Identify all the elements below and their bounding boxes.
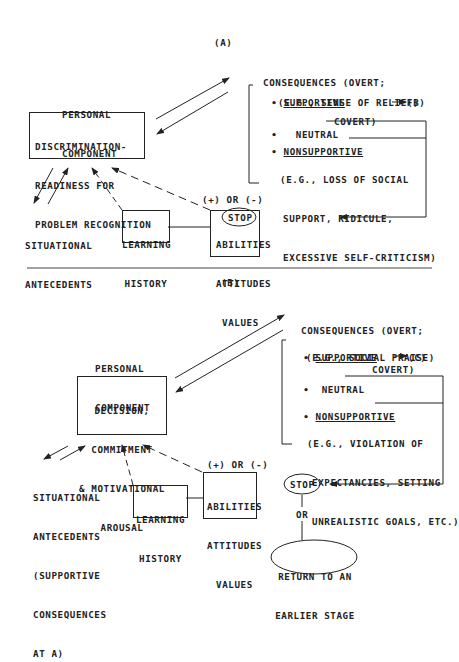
situational-line: SITUATIONAL: [25, 239, 92, 252]
supportive-line: (SUPPORTIVE: [33, 569, 107, 582]
abilities-line: ABILITIES: [216, 238, 271, 251]
history-line: HISTORY: [133, 552, 188, 565]
panel-a-label: (A): [214, 36, 232, 49]
example-line: EXCESSIVE SELF-CRITICISM): [280, 251, 436, 264]
consequences-line: CONSEQUENCES: [33, 608, 107, 621]
consequences-line: CONSEQUENCES (OVERT;: [301, 324, 424, 337]
target-b-label: (B): [407, 96, 425, 109]
example-line: EXPECTANCIES, SETTING: [307, 476, 459, 489]
learning-line: LEARNING: [122, 238, 170, 251]
learning-history-text-b: LEARNING HISTORY: [133, 487, 188, 578]
values-line: VALUES: [207, 578, 262, 591]
target-c-label: (C): [408, 351, 426, 364]
neutral-item-b: • NEUTRAL: [291, 370, 365, 396]
main-box-line: DECISION,: [77, 404, 167, 417]
situational-antecedents-a: SITUATIONAL ANTECEDENTS: [25, 213, 92, 304]
situational-line: SITUATIONAL: [33, 491, 107, 504]
personal-line: PERSONAL: [95, 362, 150, 375]
situational-antecedents-b: SITUATIONAL ANTECEDENTS (SUPPORTIVE CONS…: [33, 465, 107, 662]
neutral-label: NEUTRAL: [322, 384, 365, 395]
main-box-line: DISCRIMINATION-: [35, 140, 152, 153]
bullet: •: [303, 384, 309, 395]
return-line: RETURN TO AN: [272, 570, 358, 583]
learning-history-text-a: LEARNING HISTORY: [122, 212, 170, 303]
nonsupportive-example-b: (E.G., VIOLATION OF EXPECTANCIES, SETTIN…: [307, 411, 459, 541]
bullet: •: [271, 146, 277, 157]
or-label: OR: [296, 508, 308, 521]
example-line: (E.G., LOSS OF SOCIAL: [280, 173, 436, 186]
bullet: •: [271, 97, 277, 108]
antecedents-line: ANTECEDENTS: [33, 530, 107, 543]
main-box-line: COMMITMENT: [77, 443, 167, 456]
return-earlier-stage-node: RETURN TO AN EARLIER STAGE: [272, 544, 358, 635]
plus-or-minus-b: (+) OR (-): [207, 458, 268, 471]
attitudes-line: ATTITUDES: [207, 539, 262, 552]
example-line: UNREALISTIC GOALS, ETC.): [307, 515, 459, 528]
antecedents-line: ANTECEDENTS: [25, 278, 92, 291]
example-line: SUPPORT, RIDICULE,: [280, 212, 436, 225]
panel-b-label: (B): [221, 276, 239, 289]
supportive-example-a: (E.G., SENSE OF RELIEF): [278, 96, 419, 109]
values-line: VALUES: [216, 316, 271, 329]
stop-node-b: STOP: [290, 478, 315, 491]
main-box-line: READINESS FOR: [35, 179, 152, 192]
earlier-stage-line: EARLIER STAGE: [272, 609, 358, 622]
learning-line: LEARNING: [133, 513, 188, 526]
example-line: (E.G., VIOLATION OF: [307, 437, 459, 450]
plus-or-minus-a: (+) OR (-): [202, 193, 263, 206]
nonsupportive-example-a: (E.G., LOSS OF SOCIAL SUPPORT, RIDICULE,…: [280, 147, 436, 277]
history-line: HISTORY: [122, 277, 170, 290]
abilities-text-b: ABILITIES ATTITUDES VALUES: [207, 474, 262, 604]
abilities-line: ABILITIES: [207, 500, 262, 513]
at-a-line: AT A): [33, 647, 107, 660]
